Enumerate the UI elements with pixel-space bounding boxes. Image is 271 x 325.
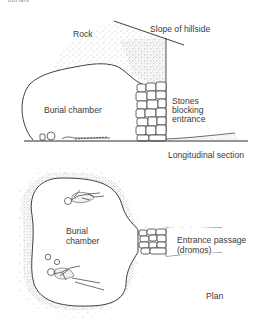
label-dromos: (dromos) (177, 245, 211, 255)
label-slope-of-hillside: Slope of hillside (150, 24, 210, 34)
label-burial-chamber-section: Burial chamber (44, 105, 102, 115)
longitudinal-section (22, 21, 248, 141)
label-stones-line3: entrance (172, 114, 205, 124)
label-rock: Rock (73, 29, 93, 39)
burial-chamber-outline (22, 64, 142, 140)
grave-goods (40, 132, 110, 140)
label-burial-plan-line2: chamber (66, 236, 99, 246)
blocking-stones (136, 82, 166, 141)
rock-cut-tomb-diagram: burials Rock Slope of hillside Burial ch… (0, 0, 271, 325)
plan-title: Plan (206, 291, 223, 301)
section-title: Longitudinal section (168, 150, 244, 160)
label-entrance-passage: Entrance passage (177, 235, 246, 245)
cutoff-caption-text: burials (8, 0, 29, 3)
diagram-drawing (0, 0, 271, 325)
label-burial-plan-line1: Burial (66, 226, 88, 236)
